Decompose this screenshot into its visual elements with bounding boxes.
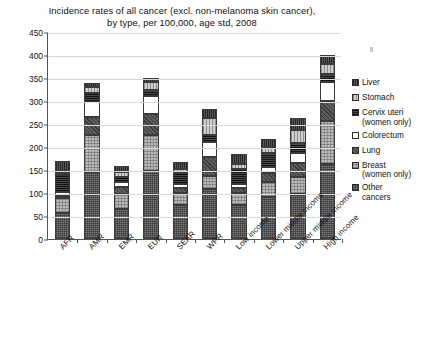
legend-item-label: Lung [362,146,380,156]
y-axis-tick-mark [44,33,48,34]
legend-item[interactable]: Cervix uteri (women only) [352,108,435,127]
bar-segment [202,118,218,135]
y-axis-tick-mark [44,171,48,172]
other-swatch-icon [352,184,359,191]
legend-item-label: Cervix uteri (women only) [362,108,411,127]
bar-group [173,162,189,239]
bar-segment [320,101,336,121]
y-axis-tick-label: 0 [38,235,43,245]
bar-segment [290,163,306,177]
bar-segment [84,102,100,117]
y-axis-tick-mark [44,240,48,241]
plot-area: 050100150200250300350400450 [47,33,341,240]
y-axis-tick-label: 200 [29,143,43,153]
bar-segment [114,194,130,209]
bar-group [55,161,71,239]
bar-segment [261,153,277,166]
y-axis-tick-mark [44,148,48,149]
bar-group [202,109,218,239]
bar-segment [261,173,277,182]
chart-title-line-1: Incidence rates of all cancer (excl. non… [49,6,316,16]
bar-segment [55,198,71,213]
y-axis-tick-label: 350 [29,74,43,84]
bar-group [84,83,100,239]
scan-artifact [370,47,373,52]
liver-swatch-icon [352,79,359,86]
y-axis-tick-mark [44,194,48,195]
bar-segment [320,121,336,164]
lung-swatch-icon [352,147,359,154]
x-axis-tick-mark [342,239,343,243]
bar-segment [320,82,336,102]
bar-segment [202,189,218,239]
x-axis-tick-mark [313,239,314,243]
bar-segment [202,176,218,189]
gridline [48,194,341,195]
bar-segment [261,139,277,147]
y-axis-tick-mark [44,102,48,103]
bar-segment [231,154,247,164]
bar-segment [143,90,159,97]
y-axis-tick-label: 250 [29,120,43,130]
x-axis-tick-mark [166,239,167,243]
legend-item[interactable]: Stomach [352,93,435,103]
legend-item[interactable]: Other cancers [352,183,435,202]
legend-item[interactable]: Lung [352,146,435,156]
breast-swatch-icon [352,162,359,169]
bar-segment [320,64,336,74]
gridline [48,171,341,172]
y-axis-tick-mark [44,217,48,218]
colorectum-swatch-icon [352,132,359,139]
gridline [48,33,341,34]
gridline [48,56,341,57]
bar-group [231,154,247,239]
y-axis-tick-mark [44,125,48,126]
bar-segment [202,109,218,118]
y-axis-tick-label: 400 [29,51,43,61]
y-axis-tick-mark [44,56,48,57]
bar-series-container [48,33,341,239]
bar-segment [202,157,218,176]
legend-item-label: Breast (women only) [362,161,411,180]
legend-item-label: Other cancers [362,183,391,202]
y-axis-tick-label: 450 [29,28,43,38]
legend-item[interactable]: Colorectum [352,131,435,141]
chart-legend: LiverStomachCervix uteri (women only)Col… [352,78,435,208]
bar-segment [290,130,306,143]
gridline [48,79,341,80]
legend-item-label: Colorectum [362,131,404,141]
y-axis-tick-label: 150 [29,166,43,176]
gridline [48,148,341,149]
bar-segment [202,142,218,156]
bar-segment [143,135,159,172]
chart-title: Incidence rates of all cancer (excl. non… [22,5,342,29]
x-axis-tick-mark [254,239,255,243]
bar-segment [143,82,159,89]
bar-segment [114,187,130,194]
bar-segment [173,193,189,205]
legend-item-label: Liver [362,78,380,88]
cancer-incidence-chart: Incidence rates of all cancer (excl. non… [0,0,435,338]
x-axis-tick-mark [283,239,284,243]
bar-segment [84,135,100,173]
legend-item[interactable]: Liver [352,78,435,88]
bar-segment [55,175,71,192]
x-axis-tick-mark [107,239,108,243]
bar-segment [84,172,100,239]
bar-segment [143,96,159,113]
y-axis-tick-label: 100 [29,189,43,199]
x-axis-tick-mark [195,239,196,243]
legend-item-label: Stomach [362,93,394,103]
x-axis-tick-mark [136,239,137,243]
bar-segment [290,177,306,194]
chart-title-line-2: by type, per 100,000, age std, 2008 [22,17,342,29]
gridline [48,125,341,126]
x-axis-tick-mark [77,239,78,243]
legend-item[interactable]: Breast (women only) [352,161,435,180]
bar-segment [290,153,306,163]
x-axis-tick-mark [224,239,225,243]
y-axis-tick-label: 50 [34,212,43,222]
gridline [48,102,341,103]
bar-segment [143,171,159,239]
bar-group [114,166,130,239]
